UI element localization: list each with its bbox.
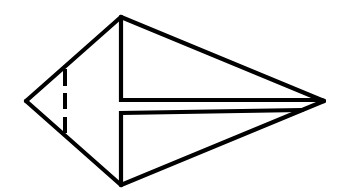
outline-top-left-edge [26,17,121,101]
origami-diagram [0,0,346,191]
outline-top-right-edge [121,17,324,101]
outline-bottom-left-edge [26,101,121,185]
inner-flap-edges [121,17,322,185]
